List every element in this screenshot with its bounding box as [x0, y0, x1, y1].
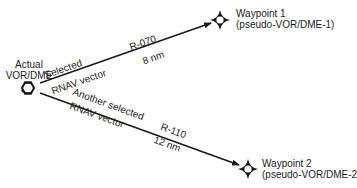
waypoint-2-star-icon — [238, 159, 258, 179]
waypoint-1-sublabel: (pseudo-VOR/DME-1) — [236, 19, 334, 30]
vor-dme-hexagon-icon — [21, 82, 34, 95]
waypoint-1-name: Waypoint 1 — [236, 8, 334, 19]
waypoint-2-name: Waypoint 2 — [262, 158, 357, 169]
vector-line-1 — [40, 23, 211, 83]
waypoint-2-label: Waypoint 2 (pseudo-VOR/DME-2 — [262, 158, 357, 180]
waypoint-2-sublabel: (pseudo-VOR/DME-2 — [262, 169, 357, 180]
waypoint-1-star-icon — [210, 10, 230, 30]
waypoint-1-label: Waypoint 1 (pseudo-VOR/DME-1) — [236, 8, 334, 30]
